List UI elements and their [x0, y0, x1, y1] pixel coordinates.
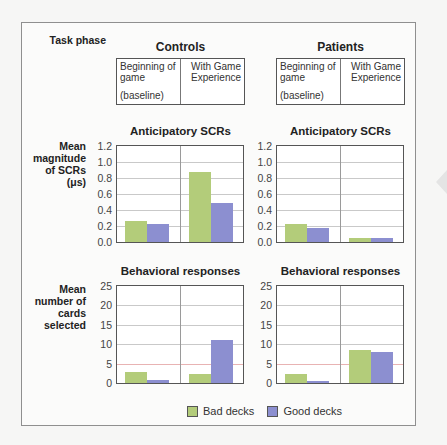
bad-decks-bar: [285, 374, 307, 383]
task-phase-label: Task phase: [40, 34, 106, 46]
legend-label-bad: Bad decks: [203, 405, 254, 417]
phase-label: Beginning of game: [120, 61, 176, 83]
y-tick-label: 5: [88, 359, 112, 369]
y-tick-label: 0.2: [88, 221, 112, 231]
y-tick-label: 25: [248, 281, 272, 291]
baseline-note: (baseline): [280, 90, 324, 101]
good-decks-bar: [211, 203, 233, 242]
bad-decks-bar: [349, 238, 371, 242]
y-tick-label: 15: [248, 320, 272, 330]
y-tick-label: 5: [248, 359, 272, 369]
bad-decks-bar: [189, 374, 211, 383]
y-tick-label: 10: [88, 339, 112, 349]
group-title-controls: Controls: [116, 40, 245, 54]
chart-title-patients-scr: Anticipatory SCRs: [276, 125, 405, 137]
y-tick-label: 20: [248, 300, 272, 310]
good-decks-bar: [371, 238, 393, 242]
legend-item-bad: Bad decks: [187, 405, 254, 417]
y-tick-label: 0.4: [88, 205, 112, 215]
plot-area: [276, 145, 404, 243]
y-tick-label: 20: [88, 300, 112, 310]
chart-title-controls-behavior: Behavioral responses: [116, 265, 245, 277]
good-decks-swatch-icon: [267, 406, 278, 417]
y-tick-label: 0.2: [248, 221, 272, 231]
y-tick-label: 0.6: [88, 189, 112, 199]
plot-area: [276, 285, 404, 384]
phase-box-controls: Beginning of game (baseline) With Game E…: [116, 58, 245, 105]
phase-divider: [180, 286, 181, 383]
chart-title-controls-scr: Anticipatory SCRs: [116, 125, 245, 137]
bad-decks-bar: [125, 372, 147, 383]
bad-decks-bar: [125, 221, 147, 242]
good-decks-bar: [147, 224, 169, 242]
phase-label: With Game Experience: [191, 61, 241, 83]
phase-box-patients: Beginning of game (baseline) With Game E…: [276, 58, 405, 105]
y-tick-label: 15: [88, 320, 112, 330]
phase-baseline: Beginning of game (baseline): [117, 59, 181, 104]
good-decks-bar: [307, 228, 329, 242]
chart-title-patients-behavior: Behavioral responses: [276, 265, 405, 277]
bad-decks-swatch-icon: [187, 406, 198, 417]
scr-row-label: Mean magnitude of SCRs (μs): [24, 140, 86, 188]
bad-decks-bar: [349, 350, 371, 383]
behavior-row-label: Mean number of cards selected: [30, 283, 86, 331]
y-tick-label: 0.8: [248, 173, 272, 183]
y-tick-label: 0.6: [248, 189, 272, 199]
y-tick-label: 0.4: [248, 205, 272, 215]
y-tick-label: 0.0: [88, 237, 112, 247]
good-decks-bar: [307, 381, 329, 383]
legend-item-good: Good decks: [267, 405, 342, 417]
plot-area: [116, 285, 244, 384]
bad-decks-bar: [285, 224, 307, 242]
y-tick-label: 1.2: [248, 141, 272, 151]
side-arrow-icon: [436, 170, 447, 194]
bad-decks-bar: [189, 172, 211, 242]
y-tick-label: 10: [248, 339, 272, 349]
phase-label: Beginning of game: [280, 61, 336, 83]
good-decks-bar: [211, 340, 233, 383]
y-tick-label: 1.0: [88, 157, 112, 167]
good-decks-bar: [371, 352, 393, 383]
phase-divider: [340, 286, 341, 383]
phase-baseline: Beginning of game (baseline): [277, 59, 341, 104]
phase-experience: With Game Experience: [341, 59, 404, 104]
y-tick-label: 1.2: [88, 141, 112, 151]
phase-divider: [180, 146, 181, 242]
legend: Bad decks Good decks: [187, 405, 355, 417]
baseline-note: (baseline): [120, 90, 164, 101]
phase-label: With Game Experience: [351, 61, 401, 83]
plot-area: [116, 145, 244, 243]
y-tick-label: 0: [248, 378, 272, 388]
y-tick-label: 1.0: [248, 157, 272, 167]
y-tick-label: 25: [88, 281, 112, 291]
legend-label-good: Good decks: [283, 405, 342, 417]
good-decks-bar: [147, 380, 169, 383]
phase-experience: With Game Experience: [181, 59, 244, 104]
y-tick-label: 0.8: [88, 173, 112, 183]
phase-divider: [340, 146, 341, 242]
group-title-patients: Patients: [276, 40, 405, 54]
y-tick-label: 0: [88, 378, 112, 388]
y-tick-label: 0.0: [248, 237, 272, 247]
